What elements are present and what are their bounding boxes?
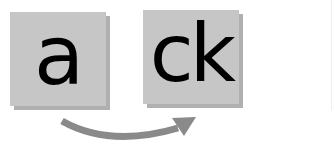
edge-divider — [331, 0, 332, 110]
curved-arrow-icon — [0, 0, 334, 145]
